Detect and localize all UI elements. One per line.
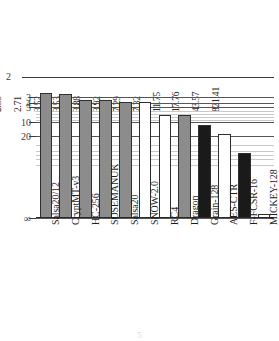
y-axis-tick-mark (29, 107, 36, 108)
category-label: F-FCSR-16 (248, 179, 259, 225)
category-label: CryptMT-v3 (70, 176, 81, 225)
category-label: RC4 (169, 207, 180, 225)
axis-break-tick-label: 2 (6, 71, 11, 82)
y-axis-tick-mark (29, 136, 36, 137)
axis-break-line (22, 77, 274, 78)
y-axis-tick-mark (29, 122, 36, 123)
bar (159, 115, 172, 218)
category-label: HC-256 (90, 193, 101, 225)
category-label: Dragon (189, 196, 200, 225)
category-label: Salsa20 (129, 195, 140, 225)
bar-chart: 2.552.713.523.533.883.927.297.3211.7517.… (0, 0, 279, 341)
category-label: Salsa20/12 (50, 182, 61, 225)
category-label: SOSEMANUK (109, 164, 120, 225)
clipped-caption-text: 5 (0, 330, 279, 341)
y-axis-tick-mark (29, 218, 36, 219)
category-label: SNOW-2.0 (149, 181, 160, 225)
category-label: MICKEY-128 (268, 169, 279, 225)
category-label: AES-CTR (228, 184, 239, 225)
category-label: Grain-128 (209, 185, 220, 225)
